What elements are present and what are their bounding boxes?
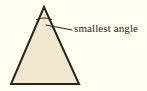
smallest-angle-label: smallest angle xyxy=(74,22,138,35)
diagram-canvas xyxy=(0,0,147,91)
geometry-diagram-figure: smallest angle xyxy=(0,0,147,91)
